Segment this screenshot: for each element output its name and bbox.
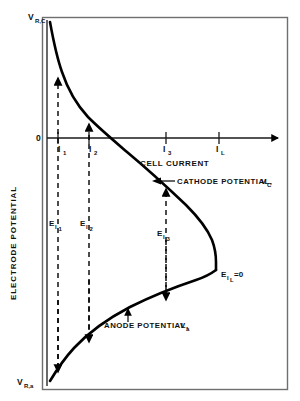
e-i3-sub2: 3: [167, 236, 171, 242]
e-i1-sub: I: [55, 224, 57, 230]
e-il-tail: =0: [234, 270, 244, 279]
origin-label: 0: [36, 133, 41, 143]
polarization-diagram: V R,C V R,a 0 I 1 I 2 I 3 I L CELL CURRE…: [0, 0, 300, 401]
tick-i2-sub: 2: [94, 150, 98, 156]
figure-frame: [43, 18, 288, 390]
tick-label-i3: I 3: [163, 144, 172, 156]
tick-il-main: I: [216, 144, 218, 154]
e-i1-sub2: 1: [59, 226, 63, 232]
tick-i1-sub: 1: [63, 150, 67, 156]
tick-il-sub: L: [221, 150, 225, 156]
tick-i3-sub: 3: [168, 150, 172, 156]
tick-label-i1: I 1: [58, 144, 67, 156]
label-zero-cell-voltage: E I L =0: [221, 270, 244, 283]
cathode-annotation-text: CATHODE POTENTIAL,: [177, 177, 273, 186]
v-ra-main: V: [17, 377, 23, 387]
tick-label-i2: I 2: [89, 144, 98, 156]
anode-annotation-text: ANODE POTENTIAL,: [104, 321, 189, 330]
annotation-anode-potential: ANODE POTENTIAL, V a: [104, 321, 190, 332]
label-overpotential-i3: E I 3: [157, 229, 171, 242]
tick-label-il: I L: [216, 144, 225, 156]
e-il-sub: I: [227, 275, 229, 281]
annotation-cathode-potential: CATHODE POTENTIAL, V C: [177, 177, 273, 188]
tick-i1-main: I: [58, 144, 60, 154]
label-reversible-anode-potential: V R,a: [17, 377, 34, 389]
tick-i2-main: I: [89, 144, 91, 154]
e-i3-sub: I: [163, 234, 165, 240]
v-rc-main: V: [28, 12, 34, 22]
e-i2-sub: I: [86, 224, 88, 230]
tick-i3-main: I: [163, 144, 165, 154]
label-reversible-cathode-potential: V R,C: [28, 12, 46, 24]
label-overpotential-i2: E I 2: [80, 219, 94, 232]
v-ra-sub: R,a: [24, 383, 34, 389]
anode-symbol-sub: a: [186, 326, 190, 332]
label-overpotential-i1: E I 1: [49, 219, 63, 232]
e-i2-sub2: 2: [90, 226, 94, 232]
cathode-potential-curve: [50, 22, 216, 270]
x-axis-label: CELL CURRENT: [140, 159, 209, 168]
cathode-symbol-sub: C: [267, 182, 272, 188]
y-axis-label: ELECTRODE POTENTIAL: [9, 186, 18, 300]
v-rc-sub: R,C: [35, 18, 46, 24]
